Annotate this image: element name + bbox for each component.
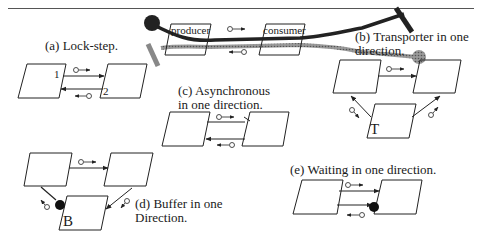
panel-e-caption: (e) Waiting in one direction. bbox=[290, 163, 436, 177]
panel-a-lock-step bbox=[18, 64, 147, 99]
panel-c-caption-line1: (c) Asynchronous bbox=[178, 84, 270, 98]
consumer-label: consumer bbox=[263, 23, 306, 37]
transporter-node-label: T bbox=[370, 122, 379, 136]
panel-d-buffer bbox=[24, 153, 153, 230]
grey-stopper-icon bbox=[148, 44, 158, 66]
panel-c-caption-line2: in one direction. bbox=[178, 98, 263, 112]
panel-a-marker-2: 2 bbox=[103, 84, 109, 98]
panel-d-caption-line2: Direction. bbox=[135, 211, 187, 225]
panel-b-caption-line1: (b) Transporter in one bbox=[355, 30, 469, 44]
producer-label: producer bbox=[171, 23, 210, 37]
waiting-dot-icon bbox=[369, 202, 379, 212]
panel-a-caption: (a) Lock-step. bbox=[45, 39, 118, 53]
panel-d-caption-line1: (d) Buffer in one bbox=[135, 197, 222, 211]
grey-ball-icon bbox=[412, 50, 426, 64]
buffer-blocking-dot-icon bbox=[55, 200, 65, 210]
panel-c-asynchronous bbox=[162, 112, 289, 148]
panel-a-marker-1: 1 bbox=[54, 67, 60, 81]
panel-e-waiting bbox=[293, 180, 422, 218]
panel-b-transporter bbox=[333, 60, 461, 138]
buffer-node-label: B bbox=[63, 214, 73, 228]
panel-b-caption-line2: direction. bbox=[355, 44, 404, 58]
dark-ball-icon bbox=[144, 15, 160, 31]
